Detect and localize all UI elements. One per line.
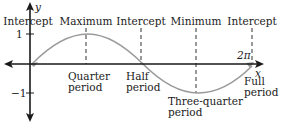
full-period-line2: period bbox=[244, 86, 279, 98]
two-pi-label: 2π bbox=[236, 49, 252, 61]
y-tick-label-neg1: −1 bbox=[11, 87, 26, 99]
quarter-period-line2: period bbox=[68, 81, 103, 93]
label-minimum: Minimum bbox=[171, 15, 222, 27]
three-quarter-period-line2: period bbox=[168, 106, 203, 118]
label-maximum: Maximum bbox=[60, 15, 113, 27]
label-intercept-start: Intercept bbox=[3, 15, 53, 27]
label-intercept-mid: Intercept bbox=[116, 15, 166, 27]
curve-arrow-end-icon bbox=[246, 62, 254, 68]
half-period-line2: period bbox=[126, 81, 161, 93]
label-intercept-end: Intercept bbox=[227, 15, 277, 27]
sine-diagram: y x 1 −1 2π Intercept Maximum Intercept … bbox=[0, 0, 284, 129]
dashed-guides bbox=[86, 28, 252, 93]
y-tick-label-1: 1 bbox=[16, 28, 23, 40]
y-axis-label: y bbox=[34, 1, 42, 13]
